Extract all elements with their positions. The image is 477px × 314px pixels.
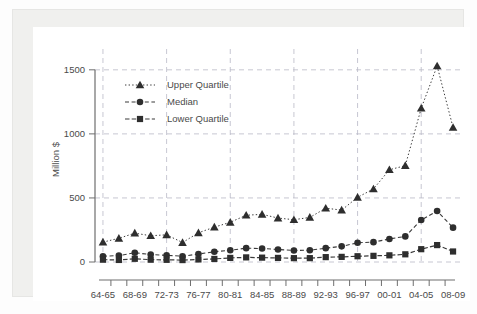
triangle-marker-icon — [194, 228, 203, 236]
circle-marker-icon — [307, 247, 314, 254]
square-marker-icon — [148, 257, 154, 263]
circle-marker-icon — [243, 245, 250, 252]
square-marker-icon — [259, 255, 265, 261]
y-tick-label: 1500 — [64, 64, 85, 75]
triangle-marker-icon — [433, 62, 442, 70]
triangle-marker-icon — [290, 215, 299, 223]
square-marker-icon — [434, 242, 440, 248]
square-marker-icon — [402, 251, 408, 257]
quartile-trend-line-chart: 050010001500 64-6568-6972-7376-7780-8184… — [33, 27, 470, 301]
circle-marker-icon — [434, 208, 441, 215]
square-marker-icon — [307, 255, 313, 261]
square-marker-icon — [339, 254, 345, 260]
legend-entry-label: Median — [167, 96, 198, 107]
triangle-marker-icon — [321, 204, 330, 212]
square-marker-icon — [227, 255, 233, 261]
series-upper-quartile — [99, 62, 458, 246]
figure-outer-frame: 050010001500 64-6568-6972-7376-7780-8184… — [12, 9, 464, 297]
square-marker-icon — [354, 253, 360, 259]
x-tick-label: 80-81 — [218, 289, 242, 300]
y-axis-tick-labels: 050010001500 — [64, 64, 85, 267]
legend-entry: Median — [125, 96, 198, 107]
triangle-marker-icon — [369, 185, 378, 193]
legend-entry-label: Lower Quartile — [167, 113, 229, 124]
circle-marker-icon — [386, 236, 393, 243]
triangle-marker-icon — [274, 214, 283, 222]
square-marker-icon — [132, 256, 138, 262]
circle-marker-icon — [131, 249, 138, 256]
gridlines-group — [95, 49, 461, 262]
square-marker-icon — [275, 255, 281, 261]
legend-entry-label: Upper Quartile — [167, 79, 229, 90]
data-series-layer — [99, 62, 458, 264]
triangle-marker-icon — [449, 123, 458, 131]
x-tick-label: 92-93 — [314, 289, 338, 300]
square-marker-icon — [323, 254, 329, 260]
square-marker-icon — [137, 116, 143, 122]
legend-entry: Upper Quartile — [125, 79, 229, 90]
x-tick-label: 68-69 — [123, 289, 147, 300]
square-marker-icon — [291, 255, 297, 261]
square-marker-icon — [386, 252, 392, 258]
circle-marker-icon — [338, 243, 345, 250]
square-marker-icon — [370, 253, 376, 259]
square-marker-icon — [450, 248, 456, 254]
triangle-marker-icon — [417, 104, 426, 112]
circle-marker-icon — [211, 248, 218, 255]
square-marker-icon — [179, 257, 185, 263]
triangle-marker-icon — [258, 210, 267, 218]
triangle-marker-icon — [146, 231, 155, 239]
x-tick-label: 96-97 — [345, 289, 369, 300]
circle-marker-icon — [137, 99, 144, 106]
x-tick-label: 04-05 — [409, 289, 433, 300]
square-marker-icon — [418, 246, 424, 252]
triangle-marker-icon — [178, 238, 187, 246]
triangle-marker-icon — [353, 193, 362, 201]
circle-marker-icon — [259, 245, 266, 252]
x-tick-label: 76-77 — [186, 289, 210, 300]
circle-marker-icon — [418, 217, 425, 224]
triangle-marker-icon — [162, 231, 171, 239]
x-tick-label: 72-73 — [154, 289, 178, 300]
figure-plot-panel: 050010001500 64-6568-6972-7376-7780-8184… — [33, 27, 470, 301]
triangle-marker-icon — [401, 161, 410, 169]
triangle-marker-icon — [210, 223, 219, 231]
square-marker-icon — [211, 256, 217, 262]
y-tick-label: 0 — [80, 256, 85, 267]
circle-marker-icon — [370, 239, 377, 246]
legend-entry: Lower Quartile — [125, 113, 229, 124]
x-axis-tick-labels: 64-6568-6972-7376-7780-8184-8588-8992-93… — [91, 289, 465, 300]
chart-screenshot-root: 050010001500 64-6568-6972-7376-7780-8184… — [0, 0, 477, 314]
circle-marker-icon — [227, 247, 234, 254]
circle-marker-icon — [275, 246, 282, 253]
axes-group — [89, 70, 455, 280]
x-axis-tick-marks — [111, 280, 445, 286]
x-tick-label: 64-65 — [91, 289, 115, 300]
triangle-marker-icon — [226, 218, 235, 226]
square-marker-icon — [164, 257, 170, 263]
circle-marker-icon — [450, 224, 457, 231]
triangle-marker-icon — [306, 213, 315, 221]
y-tick-label: 500 — [69, 192, 85, 203]
chart-legend: Upper QuartileMedianLower Quartile — [125, 79, 229, 124]
circle-marker-icon — [291, 247, 298, 254]
y-axis-title: Million $ — [50, 141, 61, 177]
circle-marker-icon — [402, 233, 409, 240]
y-tick-label: 1000 — [64, 128, 85, 139]
circle-marker-icon — [354, 239, 361, 246]
triangle-marker-icon — [130, 229, 139, 237]
square-marker-icon — [116, 257, 122, 263]
x-tick-label: 84-85 — [250, 289, 274, 300]
square-marker-icon — [100, 257, 106, 263]
triangle-marker-icon — [337, 206, 346, 214]
circle-marker-icon — [322, 245, 329, 252]
square-marker-icon — [243, 254, 249, 260]
x-tick-label: 00-01 — [377, 289, 401, 300]
triangle-marker-icon — [99, 238, 108, 246]
x-tick-label: 88-89 — [282, 289, 306, 300]
x-tick-label: 08-09 — [441, 289, 465, 300]
square-marker-icon — [195, 256, 201, 262]
